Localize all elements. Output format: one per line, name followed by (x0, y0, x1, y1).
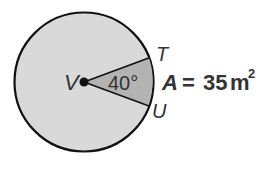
point-t-label: T (156, 43, 170, 65)
center-point (80, 78, 89, 87)
center-label: V (64, 70, 81, 95)
area-unit: m (230, 70, 250, 95)
area-variable: A (161, 70, 178, 95)
area-value: 35 (203, 70, 227, 95)
point-u-label: U (152, 100, 167, 122)
area-exponent: 2 (248, 66, 255, 81)
circle-diagram: V 40° T U A = 35 m 2 (0, 0, 270, 169)
area-equals: = (182, 70, 195, 95)
angle-label: 40° (108, 72, 138, 94)
area-label: A = 35 m 2 (161, 66, 255, 95)
